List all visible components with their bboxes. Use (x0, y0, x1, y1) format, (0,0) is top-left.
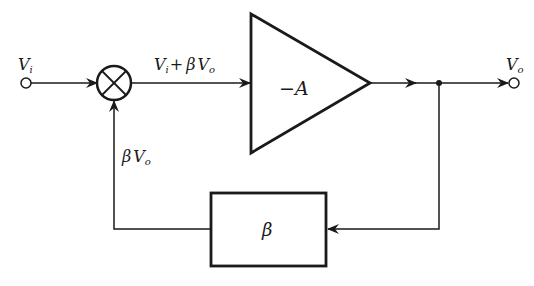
feedback-diagram: Vi Vi+βVo −A Vo β βVo (0, 0, 534, 286)
feedback-signal-label: βVo (121, 147, 151, 167)
sum-output-label: Vi+βVo (154, 55, 215, 75)
feedback-block-label: β (261, 219, 272, 240)
summing-junction-icon (97, 66, 131, 100)
input-label: Vi (18, 55, 33, 75)
output-terminal (509, 78, 519, 88)
feedback-to-block-arrow (328, 83, 439, 229)
output-label: Vo (506, 55, 524, 75)
amplifier-label: −A (279, 77, 309, 99)
amplifier-triangle (251, 14, 370, 153)
input-terminal (21, 78, 31, 88)
